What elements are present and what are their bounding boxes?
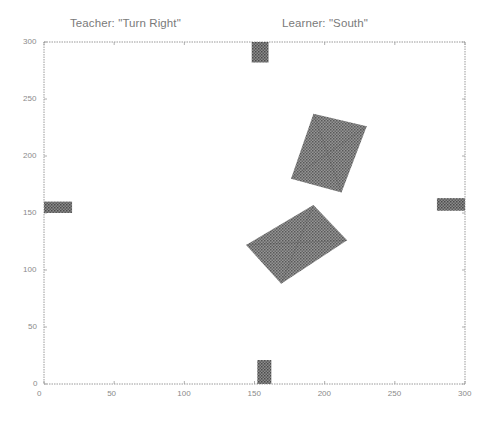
y-tick-label: 250: [23, 94, 36, 103]
x-tick-label: 100: [177, 389, 190, 398]
x-tick-label: 0: [37, 389, 41, 398]
y-tick-label: 100: [23, 265, 36, 274]
y-tick-label: 50: [28, 322, 37, 331]
x-tick-label: 150: [248, 389, 261, 398]
y-tick-label: 150: [23, 208, 36, 217]
y-tick-label: 300: [23, 37, 36, 46]
top-marker: [252, 42, 269, 63]
lower-rotated-rectangle: [246, 205, 347, 284]
x-tick-label: 200: [318, 389, 331, 398]
x-tick-label: 250: [388, 389, 401, 398]
bottom-marker: [257, 360, 271, 384]
right-marker: [437, 198, 465, 211]
left-marker: [44, 202, 72, 213]
y-tick-label: 200: [23, 151, 36, 160]
upper-rotated-rectangle: [291, 114, 367, 193]
plot-area: [0, 0, 497, 421]
x-tick-label: 50: [107, 389, 116, 398]
y-tick-label: 0: [33, 379, 37, 388]
axes-frame: [44, 42, 465, 384]
shapes-layer: [44, 42, 465, 384]
x-tick-label: 300: [458, 389, 471, 398]
